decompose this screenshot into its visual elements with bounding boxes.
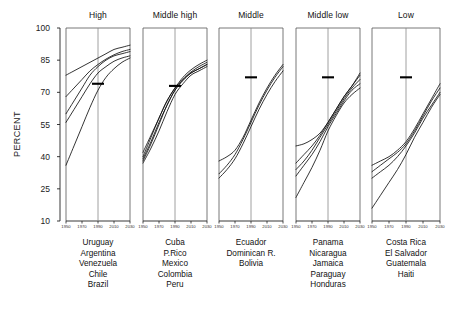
plot-area (0, 0, 471, 311)
figure-panel-chart: PERCENT 100857055402510 HighMiddle highM… (0, 0, 471, 311)
